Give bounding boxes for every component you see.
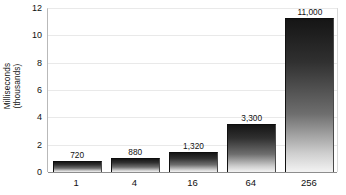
bar[interactable]	[227, 124, 276, 172]
bar-value-label: 880	[106, 147, 164, 157]
y-axis-tick-label: 2	[37, 140, 42, 150]
y-axis-title-line-1: Milliseconds	[2, 63, 12, 109]
bar-group: 11,000	[281, 9, 339, 172]
bar-group: 1,320	[164, 9, 222, 172]
bar-value-label: 11,000	[281, 7, 339, 17]
bar[interactable]	[285, 18, 334, 172]
x-axis-tick-label: 64	[245, 177, 256, 188]
x-axis-tick-label: 16	[187, 177, 198, 188]
x-axis-tick-label: 4	[132, 177, 137, 188]
y-axis-tick-label: 12	[32, 3, 42, 13]
bar-group: 720	[48, 9, 106, 172]
bar[interactable]	[169, 152, 218, 173]
bar[interactable]	[53, 161, 102, 172]
y-axis-tick-label: 6	[37, 85, 42, 95]
x-axis-tick-label: 256	[301, 177, 317, 188]
x-axis-tick-label: 1	[73, 177, 78, 188]
bar[interactable]	[111, 158, 160, 172]
bar-series: 7208801,3203,30011,000	[48, 9, 337, 172]
y-axis-title-line-2: (thousands)	[12, 63, 22, 109]
y-axis-tick-labels: 024681012	[22, 8, 44, 172]
y-axis-tick-label: 8	[37, 58, 42, 68]
bar-value-label: 1,320	[164, 141, 222, 151]
plot-area: 7208801,3203,30011,000	[47, 8, 338, 172]
bar-group: 3,300	[223, 9, 281, 172]
bar-value-label: 720	[48, 150, 106, 160]
bar-chart: Milliseconds (thousands) 024681012 72088…	[0, 0, 346, 195]
y-axis-tick-label: 4	[37, 112, 42, 122]
x-axis-tick-labels: 141664256	[47, 174, 338, 194]
y-axis-tick-label: 10	[32, 30, 42, 40]
y-axis-tick-label: 0	[37, 167, 42, 177]
axis-baseline	[48, 172, 337, 173]
y-axis-title: Milliseconds (thousands)	[0, 0, 24, 172]
bar-group: 880	[106, 9, 164, 172]
bar-value-label: 3,300	[223, 113, 281, 123]
